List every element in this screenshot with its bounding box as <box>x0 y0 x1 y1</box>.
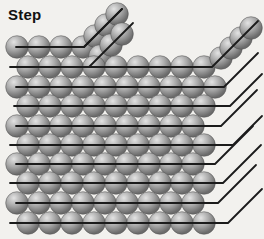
atoms-layer <box>6 3 263 235</box>
diagram-title: Step <box>8 6 41 23</box>
step-diagram-svg <box>0 0 264 239</box>
step-diagram: Step <box>0 0 264 239</box>
